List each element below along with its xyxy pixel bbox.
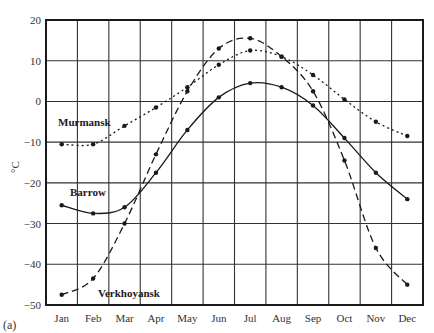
murmansk-data-point bbox=[342, 97, 346, 101]
x-tick-label: May bbox=[177, 312, 198, 324]
barrow-data-point bbox=[374, 170, 378, 174]
x-tick-label: Oct bbox=[337, 312, 353, 324]
verkhoyansk-data-point bbox=[342, 158, 346, 162]
barrow-data-point bbox=[60, 203, 64, 207]
murmansk-data-point bbox=[405, 134, 409, 138]
barrow-data-point bbox=[405, 197, 409, 201]
verkhoyansk-data-point bbox=[91, 276, 95, 280]
x-tick-label: Mar bbox=[115, 312, 134, 324]
verkhoyansk-label: Verkhoyansk bbox=[98, 287, 161, 299]
murmansk-data-point bbox=[122, 124, 126, 128]
x-tick-label: Jul bbox=[244, 312, 257, 324]
y-tick-label: 20 bbox=[30, 14, 42, 26]
series-labels: MurmanskBarrowVerkhoyansk bbox=[58, 116, 161, 299]
barrow-data-point bbox=[122, 205, 126, 209]
panel-label: (a) bbox=[3, 318, 16, 332]
x-tick-label: Jun bbox=[211, 312, 227, 324]
x-tick-label: Dec bbox=[398, 312, 416, 324]
y-axis-label: °C bbox=[9, 161, 21, 173]
x-tick-label: Nov bbox=[366, 312, 385, 324]
verkhoyansk-data-point bbox=[60, 293, 64, 297]
x-tick-label: Jan bbox=[54, 312, 69, 324]
verkhoyansk-data-point bbox=[122, 221, 126, 225]
y-tick-label: −50 bbox=[24, 299, 42, 311]
verkhoyansk-data-point bbox=[279, 54, 283, 58]
verkhoyansk-data-point bbox=[154, 152, 158, 156]
y-tick-label: −20 bbox=[24, 177, 42, 189]
murmansk-data-point bbox=[374, 120, 378, 124]
verkhoyansk-data-point bbox=[248, 36, 252, 40]
murmansk-data-point bbox=[217, 63, 221, 67]
barrow-data-point bbox=[279, 85, 283, 89]
verkhoyansk-data-point bbox=[185, 89, 189, 93]
barrow-data-point bbox=[91, 211, 95, 215]
verkhoyansk-data-point bbox=[374, 246, 378, 250]
y-tick-label: −30 bbox=[24, 218, 42, 230]
temperature-line-chart: 20100−10−20−30−40−50 JanFebMarAprMayJunJ… bbox=[0, 0, 434, 333]
y-tick-label: −40 bbox=[24, 258, 42, 270]
barrow-label: Barrow bbox=[70, 186, 106, 198]
y-tick-label: 0 bbox=[36, 95, 42, 107]
murmansk-data-point bbox=[311, 73, 315, 77]
verkhoyansk-data-point bbox=[217, 46, 221, 50]
y-tick-label: −10 bbox=[24, 136, 42, 148]
murmansk-data-point bbox=[154, 105, 158, 109]
murmansk-data-point bbox=[91, 142, 95, 146]
verkhoyansk-data-point bbox=[405, 282, 409, 286]
verkhoyansk-data-point bbox=[311, 89, 315, 93]
murmansk-label: Murmansk bbox=[58, 116, 111, 128]
barrow-data-point bbox=[217, 95, 221, 99]
y-axis-ticks: 20100−10−20−30−40−50 bbox=[24, 14, 42, 311]
x-tick-label: Apr bbox=[147, 312, 164, 324]
y-tick-label: 10 bbox=[30, 55, 42, 67]
x-tick-label: Aug bbox=[272, 312, 291, 324]
murmansk-data-point bbox=[60, 142, 64, 146]
x-tick-label: Sep bbox=[305, 312, 322, 324]
x-axis-ticks: JanFebMarAprMayJunJulAugSepOctNovDec bbox=[54, 312, 416, 324]
barrow-data-point bbox=[342, 136, 346, 140]
barrow-data-point bbox=[154, 170, 158, 174]
barrow-data-point bbox=[311, 103, 315, 107]
barrow-data-point bbox=[185, 128, 189, 132]
x-tick-label: Feb bbox=[85, 312, 102, 324]
murmansk-data-point bbox=[248, 48, 252, 52]
barrow-data-point bbox=[248, 81, 252, 85]
